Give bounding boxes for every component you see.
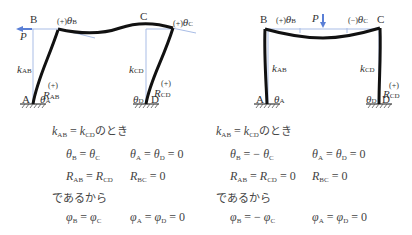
load-arrow-p-vertical bbox=[320, 14, 326, 28]
svg-text:θD: θD bbox=[133, 93, 143, 105]
svg-text:kAB: kAB bbox=[17, 63, 32, 75]
right-line4: ψAB = ψCD = 0ψBC = 0 bbox=[216, 231, 367, 235]
right-line1: θB = − θCθA = θD = 0 bbox=[216, 145, 367, 168]
svg-text:θD: θD bbox=[366, 93, 376, 105]
right-therefore: であるから bbox=[216, 190, 367, 209]
svg-text:P: P bbox=[311, 12, 319, 24]
svg-text:(+)θC: (+)θC bbox=[173, 16, 193, 28]
right-line2: RAB = RCD = 0RBC = 0 bbox=[216, 167, 367, 190]
svg-text:C: C bbox=[377, 13, 384, 25]
left-frame: B P (+)θB C (+)θC kAB kCD (+) RAB (+) RC… bbox=[16, 10, 196, 108]
svg-text:kAB: kAB bbox=[272, 62, 287, 74]
left-line4: ψAB = ψCDψBC = 0 bbox=[52, 231, 185, 235]
svg-text:θA: θA bbox=[274, 93, 284, 105]
right-frame: B (+)θB P (−)θC C kAB kCD (+) RCD A θA θ… bbox=[254, 12, 399, 108]
svg-text:(+)θB: (+)θB bbox=[57, 14, 77, 26]
frame-diagrams: B P (+)θB C (+)θC kAB kCD (+) RAB (+) RC… bbox=[0, 0, 412, 120]
left-line1: θB = θCθA = θD = 0 bbox=[52, 145, 185, 168]
svg-text:B: B bbox=[30, 13, 37, 25]
left-therefore: であるから bbox=[52, 190, 185, 209]
svg-text:(+)θB: (+)θB bbox=[276, 13, 296, 25]
left-line2: RAB = RCDRBC = 0 bbox=[52, 167, 185, 190]
left-line3: φB = φCφA = φD = 0 bbox=[52, 208, 185, 231]
svg-text:D: D bbox=[151, 93, 159, 105]
svg-text:(−)θC: (−)θC bbox=[348, 13, 368, 25]
svg-text:P: P bbox=[19, 30, 27, 42]
right-line3: φB = − φCφA = φD = 0 bbox=[216, 208, 367, 231]
svg-text:D: D bbox=[382, 93, 390, 105]
svg-text:A: A bbox=[256, 93, 264, 105]
left-equations: kAB = kCDのとき θB = θCθA = θD = 0 RAB = RC… bbox=[52, 122, 185, 234]
right-equations: kAB = kCDのとき θB = − θCθA = θD = 0 RAB = … bbox=[216, 122, 367, 234]
svg-text:kCD: kCD bbox=[129, 63, 144, 75]
left-condition: kAB = kCDのとき bbox=[52, 122, 185, 145]
right-condition: kAB = kCDのとき bbox=[216, 122, 367, 145]
svg-text:(+): (+) bbox=[161, 79, 171, 88]
svg-text:kCD: kCD bbox=[360, 62, 375, 74]
svg-text:B: B bbox=[260, 13, 267, 25]
svg-text:C: C bbox=[140, 10, 147, 22]
svg-text:A: A bbox=[22, 93, 30, 105]
svg-text:(+): (+) bbox=[389, 81, 399, 90]
